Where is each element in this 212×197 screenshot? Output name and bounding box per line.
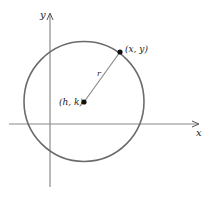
y-axis xyxy=(47,13,53,187)
x-axis xyxy=(9,121,199,127)
diagram-canvas: y x r (h, k) (x, y) xyxy=(0,0,212,197)
radius-label: r xyxy=(97,69,102,78)
x-axis-label: x xyxy=(196,127,202,138)
radius-line xyxy=(84,52,120,102)
point-label: (x, y) xyxy=(125,44,148,54)
circle-point xyxy=(117,49,122,54)
center-label: (h, k) xyxy=(59,97,83,107)
y-axis-label: y xyxy=(39,9,46,20)
